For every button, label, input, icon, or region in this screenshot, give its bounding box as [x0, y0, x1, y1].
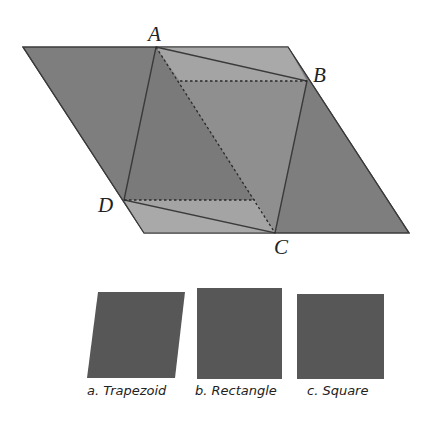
geometry-diagram: A B C D a. Trapezoid b. Rectangle c. Squ… — [0, 0, 432, 429]
trapezoid-shape — [87, 292, 185, 378]
option-b-label: b. Rectangle — [195, 383, 277, 398]
square-shape — [297, 294, 384, 379]
rectangle-shape — [197, 288, 282, 379]
option-a-label: a. Trapezoid — [87, 383, 167, 398]
option-c-label: c. Square — [307, 383, 368, 398]
vertex-label-A: A — [146, 22, 161, 46]
vertex-label-B: B — [313, 63, 326, 87]
vertex-label-D: D — [97, 193, 113, 217]
vertex-label-C: C — [274, 235, 289, 259]
